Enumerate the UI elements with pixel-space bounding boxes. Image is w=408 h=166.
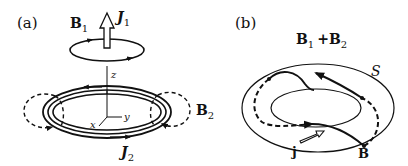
panel-a: (a) B1 J1 z x y: [17, 9, 214, 163]
magnetic-field-diagram: (a) B1 J1 z x y: [0, 0, 408, 166]
panel-a-label: (a): [17, 14, 38, 32]
surface-label: S: [371, 63, 381, 79]
x-axis-label: x: [90, 119, 96, 130]
panel-b-label: (b): [235, 14, 256, 32]
b1-label: B1: [70, 15, 88, 34]
y-axis-label: y: [123, 111, 130, 122]
z-axis-label: z: [110, 69, 117, 80]
current-label: j: [291, 144, 297, 159]
combined-field-title: B1+B2: [296, 31, 347, 50]
j1-label: J1: [114, 9, 130, 28]
field-label: B: [358, 146, 369, 161]
j1-current-arrow-icon: [100, 13, 114, 48]
j2-label: J2: [118, 144, 134, 163]
current-density-arrow-icon: [300, 131, 324, 143]
b2-label: B2: [196, 102, 214, 121]
panel-b: (b) B1+B2 S j B: [235, 14, 394, 161]
field-lines: [254, 72, 378, 148]
